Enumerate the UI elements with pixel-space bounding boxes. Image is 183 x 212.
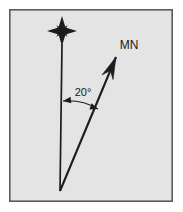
declination-angle-label: 20° (75, 86, 92, 98)
magnetic-north-label: MN (120, 38, 139, 52)
declination-diagram-canvas: 20° MN (0, 0, 183, 212)
compass-star-hub (59, 28, 64, 33)
declination-figure: 20° MN (0, 0, 183, 212)
